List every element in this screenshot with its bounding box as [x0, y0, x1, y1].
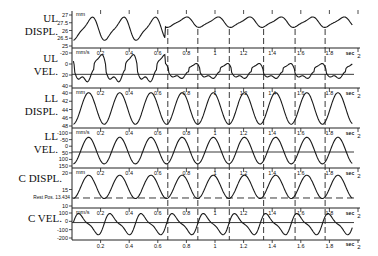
x-tick-label: 1.2: [240, 210, 248, 216]
x-unit-label: sec: [346, 210, 355, 216]
waveform-c-vel: [73, 214, 352, 235]
y-tick-label: 20: [62, 170, 68, 176]
x-tick-label: 0.6: [154, 210, 162, 216]
x-tick-label: 0.6: [154, 50, 162, 56]
x-tick-label: 0.8: [183, 170, 191, 176]
panel-label-line: LL: [25, 92, 58, 105]
x-unit-label: sec: [346, 130, 355, 136]
panel-c-vel: 0.20.40.60.811.21.41.61.8sec2mm/s1000-10…: [57, 208, 361, 241]
x-tick-label: 0.4: [125, 210, 133, 216]
x-tick-label: 0.8: [183, 210, 191, 216]
y-tick-label: 48: [62, 123, 68, 129]
x-unit-label: sec: [346, 90, 355, 96]
panel-label-line: C VEL.: [28, 212, 62, 225]
x-tick-label: 1.8: [326, 243, 334, 249]
panel-label-ll-displ: LLDISPL.: [25, 92, 58, 118]
x-tick-label: 1.2: [240, 50, 248, 56]
y-tick-label: 0: [65, 61, 68, 67]
panel-c-displ: 0.20.40.60.811.21.41.61.8sec2mm201510Res…: [33, 168, 361, 209]
y-tick-label: 46: [62, 115, 68, 121]
x-tick-label: 1.6: [297, 210, 305, 216]
x-tick-label: 0.4: [125, 130, 133, 136]
y-unit-label: mm: [76, 89, 86, 95]
x-tick-label: 1: [213, 130, 216, 136]
x-tick-label: 0.8: [183, 243, 191, 249]
x-unit-label: sec: [346, 50, 355, 56]
panel-ll-displ: 0.20.40.60.811.21.41.61.8sec2mm404244464…: [62, 88, 361, 129]
x-tick-label: 0.8: [183, 50, 191, 56]
y-tick-label: 44: [62, 107, 68, 113]
y-tick-label: 0: [65, 143, 68, 149]
x-tick-label: 1.6: [297, 170, 305, 176]
panel-label-line: DISPL.: [25, 25, 58, 38]
x-tick-label: 1.8: [326, 210, 334, 216]
panel-ll-vel: 0.20.40.60.811.21.41.61.8sec2mm/s-100-50…: [57, 128, 361, 169]
x-tick-label: 0.6: [154, 90, 162, 96]
x-tick-label: 0.6: [154, 243, 162, 249]
panel-label-line: UL: [34, 52, 58, 65]
x-tick-label: 1.4: [268, 210, 276, 216]
y-tick-label: 25: [62, 43, 68, 49]
rest-position-label: Rest Pos. 13.434: [33, 195, 70, 200]
panel-label-line: VEL.: [34, 143, 58, 156]
x-tick-label: 2: [357, 173, 361, 179]
waveform-ll-vel: [73, 137, 352, 164]
y-tick-label: 26.5: [57, 35, 68, 41]
y-tick-label: 10: [62, 203, 68, 209]
y-unit-label: mm: [76, 169, 86, 175]
y-tick-label: 15: [62, 187, 68, 193]
y-tick-label: 40: [62, 90, 68, 96]
panel-label-ll-vel: LLVEL.: [34, 130, 58, 156]
panel-label-line: VEL.: [34, 65, 58, 78]
panel-label-line: DISPL.: [25, 105, 58, 118]
x-tick-label: 0.2: [97, 130, 105, 136]
y-tick-label: -200: [57, 235, 68, 241]
x-tick-label: 1: [213, 210, 216, 216]
y-unit-label: mm: [76, 11, 86, 17]
x-tick-label: 0.8: [183, 130, 191, 136]
panel-label-line: LL: [34, 130, 58, 143]
x-tick-label: 2: [357, 133, 361, 139]
x-unit-label: sec: [346, 241, 355, 247]
x-tick-label: 1.2: [240, 130, 248, 136]
x-unit-label: sec: [346, 170, 355, 176]
x-tick-label: 1.2: [240, 243, 248, 249]
y-tick-label: 0: [65, 218, 68, 224]
x-tick-label: 1.6: [297, 130, 305, 136]
waveform-c-displ: [73, 175, 352, 198]
waveform-ul-displ: [73, 17, 352, 40]
x-tick-label: 1.4: [268, 50, 276, 56]
x-tick-label: 1: [213, 243, 216, 249]
panel-label-line: UL: [25, 12, 58, 25]
x-tick-label: 1.8: [326, 90, 334, 96]
y-unit-label: mm/s: [76, 49, 90, 55]
y-tick-label: 27: [62, 12, 68, 18]
x-tick-label: 1: [213, 50, 216, 56]
panel-label-line: C DISPL.: [19, 172, 62, 185]
x-tick-label: 0.4: [125, 243, 133, 249]
y-tick-label: 26: [62, 28, 68, 34]
x-tick-label: 0.2: [97, 210, 105, 216]
x-tick-label: 1.6: [297, 50, 305, 56]
y-tick-label: 50: [62, 150, 68, 156]
x-tick-label: 0.2: [97, 90, 105, 96]
x-tick-label: 0.2: [97, 170, 105, 176]
y-tick-label: 40: [62, 83, 68, 89]
x-tick-label: 0.2: [97, 243, 105, 249]
y-tick-label: -20: [60, 50, 68, 56]
panel-label-c-displ: C DISPL.: [19, 172, 62, 185]
x-tick-label: 0.6: [154, 170, 162, 176]
y-tick-label: 100: [59, 156, 68, 162]
y-tick-label: 150: [59, 163, 68, 169]
x-tick-label: 0.4: [125, 90, 133, 96]
panel-label-ul-vel: ULVEL.: [34, 52, 58, 78]
x-tick-label: 0.6: [154, 130, 162, 136]
x-tick-label: 1.8: [326, 50, 334, 56]
x-tick-label: 1.6: [297, 243, 305, 249]
x-tick-label: 2: [357, 213, 361, 219]
y-tick-label: 20: [62, 72, 68, 78]
y-unit-label: mm/s: [76, 129, 90, 135]
bottom-x-axis: 0.20.40.60.811.21.41.61.8sec2: [97, 240, 362, 250]
x-tick-label: 1.8: [326, 130, 334, 136]
x-tick-label: 1.8: [326, 170, 334, 176]
